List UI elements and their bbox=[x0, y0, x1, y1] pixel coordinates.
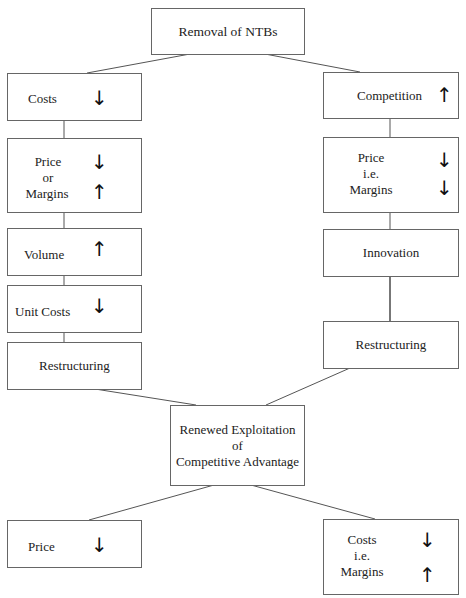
right-restructuring-label: Restructuring bbox=[356, 337, 427, 353]
left-price-margins-box: Price or Margins ↓ ↑ bbox=[7, 138, 142, 213]
arrow-down-icon: ↓ bbox=[91, 296, 108, 316]
center-line-3: Competitive Advantage bbox=[176, 454, 299, 470]
arrow-down-icon: ↓ bbox=[91, 535, 108, 555]
left-or-label: or bbox=[30, 170, 66, 186]
arrow-down-icon: ↓ bbox=[436, 150, 453, 170]
outcome-ie-label: i.e. bbox=[336, 548, 388, 564]
arrow-up-icon: ↑ bbox=[436, 85, 453, 105]
outcome-costs-label: Costs bbox=[336, 532, 388, 548]
arrow-up-icon: ↑ bbox=[91, 182, 108, 202]
arrow-down-icon: ↓ bbox=[419, 530, 436, 550]
outcome-price-box: Price ↓ bbox=[7, 520, 142, 568]
outcome-margins-label: Margins bbox=[336, 564, 388, 580]
left-costs-label: Costs bbox=[28, 91, 57, 107]
left-volume-box: Volume ↑ bbox=[7, 228, 142, 276]
arrow-up-icon: ↑ bbox=[91, 239, 108, 259]
arrow-up-icon: ↑ bbox=[419, 565, 436, 585]
left-restructuring-label: Restructuring bbox=[39, 358, 110, 374]
right-margins-label: Margins bbox=[346, 182, 396, 198]
renewed-exploitation-box: Renewed Exploitation of Competitive Adva… bbox=[170, 405, 305, 486]
left-price-label: Price bbox=[30, 154, 66, 170]
right-restructuring-box: Restructuring bbox=[323, 321, 459, 369]
right-innovation-box: Innovation bbox=[323, 229, 459, 277]
removal-of-ntbs-label: Removal of NTBs bbox=[179, 24, 278, 40]
right-price-label: Price bbox=[346, 150, 396, 166]
left-restructuring-box: Restructuring bbox=[7, 342, 142, 390]
right-price-margins-box: Price i.e. Margins ↓ ↓ bbox=[323, 137, 459, 213]
left-unit-costs-box: Unit Costs ↓ bbox=[7, 285, 142, 333]
arrow-down-icon: ↓ bbox=[436, 178, 453, 198]
left-costs-box: Costs ↓ bbox=[7, 73, 142, 121]
left-unit-costs-label: Unit Costs bbox=[15, 304, 70, 320]
outcome-price-label: Price bbox=[28, 539, 55, 555]
left-margins-label: Margins bbox=[22, 186, 72, 202]
right-ie-label: i.e. bbox=[346, 166, 396, 182]
right-innovation-label: Innovation bbox=[363, 245, 419, 261]
right-competition-label: Competition bbox=[357, 88, 422, 104]
right-competition-box: Competition ↑ bbox=[323, 72, 459, 119]
arrow-down-icon: ↓ bbox=[91, 88, 108, 108]
arrow-down-icon: ↓ bbox=[91, 152, 108, 172]
center-line-2: of bbox=[232, 438, 243, 454]
left-volume-label: Volume bbox=[24, 247, 64, 263]
center-line-1: Renewed Exploitation bbox=[180, 422, 296, 438]
outcome-costs-margins-box: Costs i.e. Margins ↓ ↑ bbox=[323, 519, 459, 595]
removal-of-ntbs-box: Removal of NTBs bbox=[151, 8, 305, 55]
